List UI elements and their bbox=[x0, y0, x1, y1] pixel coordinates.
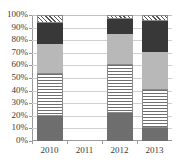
bar-2012 bbox=[107, 15, 133, 141]
y-tick-20 bbox=[29, 116, 32, 117]
bar-segment-2010-series-3 bbox=[37, 44, 63, 73]
bar-segment-2013-series-5 bbox=[142, 15, 168, 21]
x-tick-2010 bbox=[32, 141, 33, 144]
y-axis-label-70: 70% bbox=[12, 48, 29, 57]
bar-segment-2012-series-5 bbox=[107, 15, 133, 19]
y-tick-50 bbox=[29, 78, 32, 79]
y-axis-label-100: 100% bbox=[7, 10, 28, 19]
x-tick-2012 bbox=[102, 141, 103, 144]
plot-area bbox=[32, 15, 172, 141]
bar-segment-2012-series-1 bbox=[107, 113, 133, 141]
bar-2010 bbox=[37, 15, 63, 141]
y-tick-60 bbox=[29, 65, 32, 66]
bar-segment-2012-series-3 bbox=[107, 34, 133, 64]
x-axis-label-2010: 2010 bbox=[30, 145, 70, 155]
y-tick-40 bbox=[29, 91, 32, 92]
bar-segment-2013-series-1 bbox=[142, 128, 168, 141]
y-axis-label-40: 40% bbox=[12, 86, 29, 95]
bar-segment-2013-series-2 bbox=[142, 89, 168, 128]
y-tick-90 bbox=[29, 28, 32, 29]
y-axis-label-30: 30% bbox=[12, 98, 29, 107]
bar-segment-2010-series-5 bbox=[37, 15, 63, 23]
x-axis: 2010201120122013 bbox=[0, 143, 181, 163]
y-axis-label-10: 10% bbox=[12, 123, 29, 132]
y-axis-label-20: 20% bbox=[12, 111, 29, 120]
bar-segment-2010-series-2 bbox=[37, 73, 63, 116]
x-axis-label-2012: 2012 bbox=[100, 145, 140, 155]
y-axis-label-50: 50% bbox=[12, 73, 29, 82]
bar-segment-2013-series-4 bbox=[142, 21, 168, 51]
bar-segment-2010-series-4 bbox=[37, 23, 63, 44]
x-axis-label-2013: 2013 bbox=[135, 145, 175, 155]
y-axis: 0%10%20%30%40%50%60%70%80%90%100% bbox=[0, 0, 32, 163]
y-axis-label-60: 60% bbox=[12, 60, 29, 69]
y-tick-100 bbox=[29, 15, 32, 16]
stacked-bar-chart: 0%10%20%30%40%50%60%70%80%90%100% 201020… bbox=[0, 0, 181, 163]
x-axis-label-2011: 2011 bbox=[65, 145, 105, 155]
y-axis-label-90: 90% bbox=[12, 23, 29, 32]
x-tick-2011 bbox=[67, 141, 68, 144]
y-tick-80 bbox=[29, 40, 32, 41]
bar-segment-2012-series-4 bbox=[107, 19, 133, 34]
bar-segment-2012-series-2 bbox=[107, 64, 133, 113]
y-axis-label-80: 80% bbox=[12, 35, 29, 44]
y-tick-70 bbox=[29, 53, 32, 54]
x-tick-2013 bbox=[137, 141, 138, 144]
bar-segment-2010-series-1 bbox=[37, 116, 63, 141]
bar-segment-2013-series-3 bbox=[142, 52, 168, 90]
y-tick-10 bbox=[29, 128, 32, 129]
y-tick-30 bbox=[29, 103, 32, 104]
bar-2013 bbox=[142, 15, 168, 141]
